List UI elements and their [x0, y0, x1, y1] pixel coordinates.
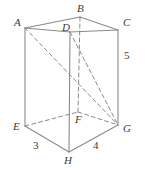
edge-A-B — [25, 17, 80, 28]
vertex-label-E: E — [13, 121, 20, 132]
vertex-label-G: G — [123, 123, 131, 134]
edge-D-H — [69, 32, 70, 152]
edge-E-F — [25, 112, 78, 126]
vertex-label-B: B — [77, 3, 84, 14]
edge-E-H — [25, 126, 69, 152]
vertex-label-A: A — [14, 17, 21, 28]
vertex-label-C: C — [123, 17, 130, 28]
edge-D-C — [70, 30, 118, 32]
edge-layer — [25, 17, 118, 152]
vertex-label-F: F — [75, 114, 82, 125]
measure-label-5: 5 — [124, 50, 130, 61]
diagonal-D-G — [70, 32, 118, 125]
vertex-label-H: H — [64, 155, 72, 166]
diagonal-A-G — [25, 28, 118, 125]
prism-figure: A B C D E F G H 3 4 5 — [0, 0, 145, 170]
vertex-label-D: D — [62, 22, 70, 33]
measure-label-3: 3 — [33, 140, 39, 151]
edge-B-C — [80, 17, 118, 30]
measure-label-4: 4 — [93, 140, 99, 151]
